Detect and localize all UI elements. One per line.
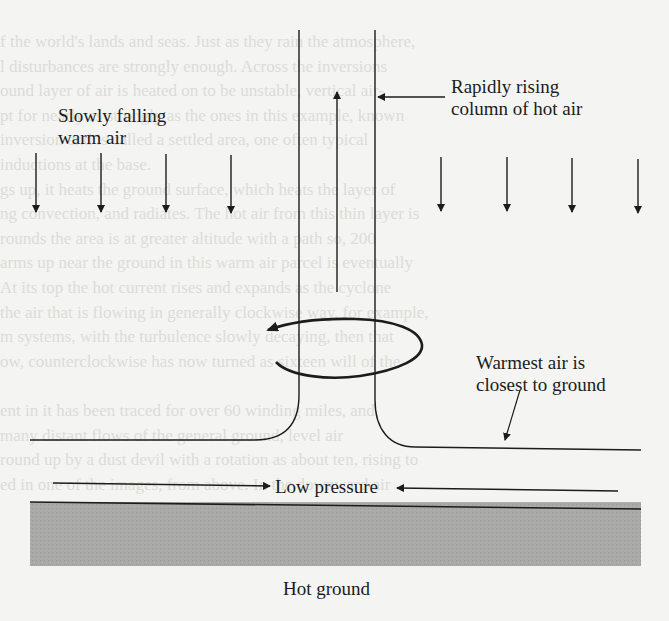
rising-column-line-2: column of hot air — [451, 98, 582, 120]
hot-ground-band — [30, 502, 641, 566]
falling-air-arrows-right — [441, 157, 638, 213]
hot-ground-label: Hot ground — [283, 578, 370, 600]
low-pressure-inflow-left-arrow-icon — [53, 483, 270, 486]
warmest-air-line-1: Warmest air is — [476, 352, 606, 374]
slowly-falling-line-2: warm air — [58, 127, 166, 149]
slowly-falling-label: Slowly falling warm air — [58, 105, 166, 149]
low-pressure-label: Low pressure — [275, 476, 378, 498]
slowly-falling-line-1: Slowly falling — [58, 105, 166, 127]
warmest-air-line-2: closest to ground — [476, 374, 606, 396]
rising-column-label: Rapidly rising column of hot air — [451, 76, 582, 120]
warmest-air-label: Warmest air is closest to ground — [476, 352, 606, 396]
low-pressure-inflow-right-arrow-icon — [397, 488, 618, 491]
rising-column-line-1: Rapidly rising — [451, 76, 582, 98]
warmest-air-pointer-arrow-icon — [505, 390, 520, 440]
rotation-ring-icon — [268, 319, 422, 378]
left-column-wall — [30, 30, 299, 440]
falling-air-arrows-left — [36, 153, 231, 213]
